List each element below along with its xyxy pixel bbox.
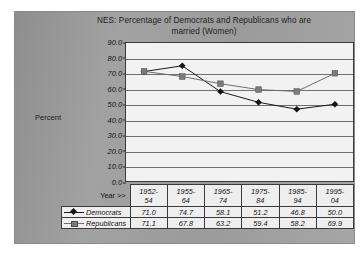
category-header-3: 1975-84 [242, 185, 279, 207]
chart-panel: NES: Percentage of Democrats and Republi… [14, 11, 355, 244]
y-tick-60-0: 60.0 [108, 84, 122, 93]
chart-title: NES: Percentage of Democrats and Republi… [59, 16, 349, 37]
data-point-democrats-4 [294, 106, 300, 112]
chart-screenshot: NES: Percentage of Democrats and Republi… [0, 0, 363, 256]
category-header-2: 1965-74 [205, 185, 242, 207]
data-point-democrats-2 [217, 89, 223, 95]
y-axis-label: Percent [35, 113, 61, 122]
value-republicans-5: 69.9 [316, 218, 353, 229]
data-point-democrats-1 [179, 63, 185, 69]
data-point-republicans-3 [256, 87, 262, 93]
y-axis-tick-labels: 90.080.070.060.050.040.030.020.010.00.0 [94, 42, 122, 182]
data-point-republicans-0 [141, 69, 147, 75]
y-tick-50-0: 50.0 [108, 100, 122, 109]
value-republicans-0: 71.1 [130, 218, 167, 229]
legend-marker-square-icon [64, 219, 84, 227]
y-tick-70-0: 70.0 [108, 69, 122, 78]
legend-item-democrats[interactable]: Democrats [62, 207, 131, 218]
category-header-1: 1955-64 [167, 185, 204, 207]
table-body: Democrats71.074.758.151.246.850.0Republi… [62, 207, 354, 229]
chart-title-line-2: married (Women) [59, 27, 349, 38]
legend-label: Democrats [86, 208, 121, 217]
category-header-0: 1952-54 [130, 185, 167, 207]
y-tick-20-0: 20.0 [108, 146, 122, 155]
value-democrats-3: 51.2 [242, 207, 279, 218]
value-republicans-4: 58.2 [279, 218, 316, 229]
data-table: Year >> 1952-541955-641965-741975-841985… [61, 184, 354, 229]
data-point-republicans-1 [179, 74, 185, 80]
value-democrats-5: 50.0 [316, 207, 353, 218]
value-republicans-3: 59.4 [242, 218, 279, 229]
data-point-republicans-5 [332, 70, 338, 76]
value-republicans-1: 67.8 [167, 218, 204, 229]
y-tick-40-0: 40.0 [108, 115, 122, 124]
x-axis-label: Year >> [62, 185, 131, 207]
value-republicans-2: 63.2 [205, 218, 242, 229]
y-tick-90-0: 90.0 [108, 38, 122, 47]
value-democrats-0: 71.0 [130, 207, 167, 218]
legend-label: Republicans [86, 219, 126, 228]
y-tick-80-0: 80.0 [108, 53, 122, 62]
table-row: Democrats71.074.758.151.246.850.0 [62, 207, 354, 218]
y-tick-10-0: 10.0 [108, 162, 122, 171]
chart-title-line-1: NES: Percentage of Democrats and Republi… [97, 16, 311, 25]
legend-item-republicans[interactable]: Republicans [62, 218, 131, 229]
data-point-democrats-3 [256, 99, 262, 105]
series-layer [125, 42, 354, 182]
value-democrats-2: 58.1 [205, 207, 242, 218]
data-point-democrats-5 [332, 101, 338, 107]
table-row: Republicans71.167.863.259.458.269.9 [62, 218, 354, 229]
series-line-republicans [144, 71, 335, 91]
series-line-democrats [144, 66, 335, 109]
y-tick-30-0: 30.0 [108, 131, 122, 140]
plot-wrapper: 90.080.070.060.050.040.030.020.010.00.0 [125, 42, 354, 182]
category-header-5: 1995-04 [316, 185, 353, 207]
legend-marker-diamond-icon [64, 208, 84, 216]
category-header-4: 1985-94 [279, 185, 316, 207]
table-header-row: Year >> 1952-541955-641965-741975-841985… [62, 185, 354, 207]
data-point-republicans-2 [218, 81, 224, 87]
data-point-republicans-4 [294, 89, 300, 95]
value-democrats-4: 46.8 [279, 207, 316, 218]
value-democrats-1: 74.7 [167, 207, 204, 218]
